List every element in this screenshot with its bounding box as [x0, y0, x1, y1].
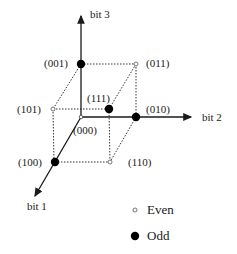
vertex-101 — [51, 107, 55, 111]
vertex-111 — [105, 105, 113, 113]
odd-marker-icon — [131, 232, 139, 240]
bit1-label: bit 1 — [27, 200, 47, 212]
label-111: (111) — [87, 92, 110, 105]
bit2-label: bit 2 — [202, 111, 222, 123]
bit3-label: bit 3 — [90, 8, 110, 20]
vertex-110 — [108, 160, 112, 164]
label-100: (100) — [18, 156, 42, 169]
vertex-011 — [134, 62, 138, 66]
label-010: (010) — [146, 103, 170, 116]
vertices — [51, 60, 140, 166]
hypercube-diagram: bit 3 bit 2 bit 1 (001) (011) (101) (111… — [0, 0, 237, 254]
vertex-010 — [132, 113, 140, 121]
legend-odd: Odd — [147, 228, 170, 243]
label-110: (110) — [128, 156, 152, 169]
label-000: (000) — [73, 124, 97, 137]
legend: Even Odd — [131, 202, 174, 243]
vertex-100 — [51, 158, 59, 166]
label-011: (011) — [146, 57, 170, 70]
label-001: (001) — [44, 57, 68, 70]
cube-edges — [53, 64, 136, 162]
legend-even: Even — [147, 202, 174, 217]
vertex-001 — [77, 60, 85, 68]
even-marker-icon — [133, 208, 137, 212]
vertex-000 — [79, 115, 83, 119]
label-101: (101) — [17, 103, 41, 116]
